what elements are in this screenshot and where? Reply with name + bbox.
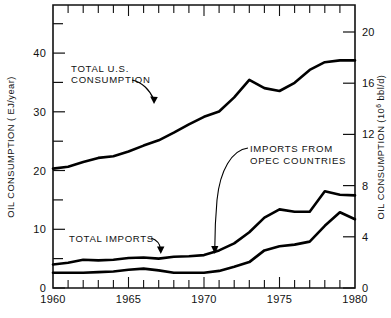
series-line-total-imports [53,191,355,264]
y-left-tick-label-20: 20 [33,165,46,177]
y-left-tick-label-40: 40 [33,47,46,59]
bottom-axis-ticks [68,277,340,288]
y-left-tick-label-0: 0 [40,282,46,294]
y-left-axis-title: OIL CONSUMPTION ( EJ/year) [6,76,16,218]
annotation-total-imports: TOTAL IMPORTS [69,233,164,254]
y-right-tick-label-4: 4 [362,231,368,243]
annotation-imports-from-opec: IMPORTS FROM OPEC COUNTRIES [211,143,346,254]
annotation-total-imports-arrowhead [157,247,164,255]
annotation-imports-from-opec-line1: IMPORTS FROM [250,143,333,154]
left-axis-ticks [53,24,65,288]
x-tick-label-1980: 1980 [342,293,367,305]
y-right-tick-label-8: 8 [362,180,368,192]
annotation-total-us-consumption: TOTAL U.S. CONSUMPTION [71,63,158,104]
y-right-axis-title-pre: OIL CONSUMPTION (10 [376,108,386,220]
y-left-tick-label-10: 10 [33,223,46,235]
y-right-tick-label-16: 16 [362,77,375,89]
y-left-tick-label-30: 30 [33,106,46,118]
x-tick-label-1975: 1975 [267,293,292,305]
annotation-imports-from-opec-line2: OPEC COUNTRIES [250,155,346,166]
x-tick-label-1960: 1960 [40,293,65,305]
annotation-imports-from-opec-leader [215,148,248,248]
annotation-total-us-consumption-arrowhead [150,97,158,105]
x-tick-label-1970: 1970 [191,293,216,305]
y-right-axis-title: OIL CONSUMPTION (106 bbl/d) [375,75,386,220]
oil-consumption-chart: 1960 1965 1970 1975 1980 0 10 20 30 40 0… [0,0,391,318]
y-right-tick-label-20: 20 [362,26,375,38]
annotation-total-imports-label: TOTAL IMPORTS [69,233,154,244]
y-right-tick-label-0: 0 [362,282,368,294]
top-axis-ticks [68,5,340,16]
x-tick-label-1965: 1965 [116,293,141,305]
y-right-tick-label-12: 12 [362,128,375,140]
y-right-axis-title-post: bbl/d) [376,75,386,104]
annotation-total-us-consumption-line1: TOTAL U.S. [71,63,129,74]
chart-canvas: 1960 1965 1970 1975 1980 0 10 20 30 40 0… [0,0,391,318]
annotation-total-us-consumption-line2: CONSUMPTION [71,74,151,85]
